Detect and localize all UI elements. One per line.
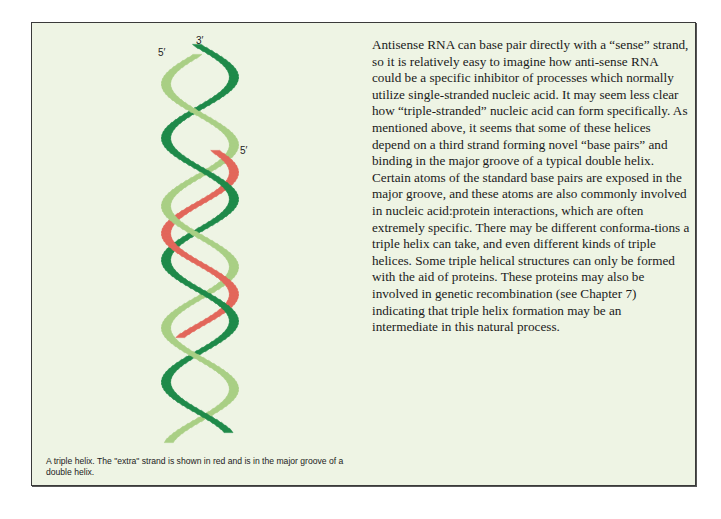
dark-green-strand-segment (193, 410, 207, 414)
red-extra-strand-segment (176, 333, 189, 337)
light-green-strand-segment (164, 438, 175, 442)
five-prime-label: 5′ (158, 47, 165, 58)
body-paragraph: Antisense RNA can base pair directly wit… (372, 37, 690, 336)
red-extra-strand-segment (192, 261, 206, 265)
triple-helix-diagram (32, 23, 362, 453)
red-extra-strand-segment (211, 150, 224, 154)
figure-caption: A triple helix. The "extra" strand is sh… (46, 456, 346, 478)
triple-helix-figure: 3′ 5′ 5′ A triple helix. The "extra" str… (32, 23, 362, 485)
three-prime-label: 3′ (196, 35, 203, 46)
light-green-strand-segment (193, 234, 207, 238)
light-green-strand-segment (195, 357, 209, 361)
body-text: Antisense RNA can base pair directly wit… (372, 37, 690, 336)
figure-panel: 3′ 5′ 5′ A triple helix. The "extra" str… (31, 22, 696, 486)
dark-green-strand-segment (191, 287, 205, 291)
red-five-prime-label: 5′ (240, 145, 247, 156)
